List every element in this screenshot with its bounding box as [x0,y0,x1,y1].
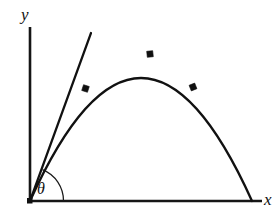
origin-point-marker [27,198,33,204]
launch-angle-label: θ [37,181,45,197]
projectile-trajectory-figure: y x θ [0,0,279,216]
trajectory-point-marker-3 [189,83,197,91]
x-axis-label: x [264,191,272,208]
initial-velocity-tangent-line [30,33,91,201]
projectile-trajectory-curve [30,78,252,201]
trajectory-point-marker-2 [147,51,154,58]
y-axis-label: y [21,6,29,23]
trajectory-point-marker-1 [82,85,90,93]
launch-angle-arc [43,170,64,201]
